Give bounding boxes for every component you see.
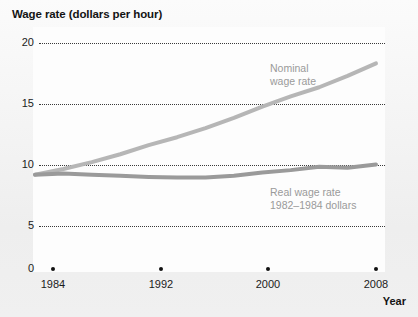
line-nominal-wage-rate bbox=[35, 63, 376, 174]
wage-rate-line-chart: Wage rate (dollars per hour) 20 15 10 5 … bbox=[0, 0, 418, 317]
line-real-wage-rate bbox=[35, 164, 376, 177]
chart-lines-svg bbox=[0, 0, 418, 317]
